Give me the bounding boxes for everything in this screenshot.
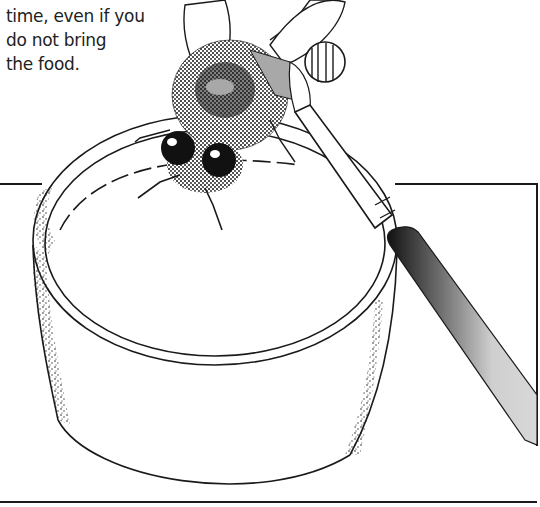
illustration (0, 0, 540, 507)
frame (0, 184, 537, 502)
paint-mark (206, 79, 234, 95)
bee-eye-right (202, 143, 236, 177)
paintbrush (250, 50, 537, 445)
bee-eye-left (161, 131, 195, 165)
